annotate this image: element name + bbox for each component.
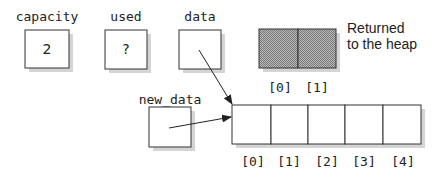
old-array-index-0: [0]: [268, 80, 291, 95]
heap-note-line-2: to the heap: [347, 36, 417, 52]
variable-label-used: used: [110, 9, 141, 24]
new-array-index-0: [0]: [241, 154, 264, 169]
variable-box-new-data: [149, 107, 191, 147]
new-array-index-4: [4]: [391, 154, 414, 169]
new-array-cell-4: [383, 105, 421, 144]
old-array: [0] [1] Returned to the heap: [259, 20, 417, 95]
new-array-index-2: [2]: [315, 154, 338, 169]
new-array-cell-2: [308, 105, 345, 144]
new-array-cell-3: [345, 105, 383, 144]
variable-label-data: data: [184, 9, 215, 24]
diagram-canvas: capacity 2 used ? data [0] [1] Returned …: [0, 0, 439, 177]
variable-label-new-data: new_data: [139, 92, 202, 107]
new-array: [0] [1] [2] [3] [4]: [232, 105, 425, 169]
old-array-cell-0: [259, 29, 298, 68]
old-array-index-1: [1]: [305, 80, 328, 95]
variable-data: data: [179, 9, 225, 73]
variable-box-data: [179, 30, 221, 69]
new-array-cell-0: [232, 105, 271, 144]
heap-note-line-1: Returned: [347, 20, 405, 36]
variable-value-used: ?: [122, 41, 129, 57]
variable-capacity: capacity 2: [16, 9, 79, 72]
new-array-cell-1: [271, 105, 308, 144]
variable-new-data: new_data: [139, 92, 202, 151]
variable-used: used ?: [105, 9, 151, 73]
new-array-index-3: [3]: [352, 154, 375, 169]
variable-label-capacity: capacity: [16, 9, 79, 24]
variable-value-capacity: 2: [43, 41, 52, 57]
old-array-cell-1: [298, 29, 336, 68]
new-array-index-1: [1]: [277, 154, 300, 169]
